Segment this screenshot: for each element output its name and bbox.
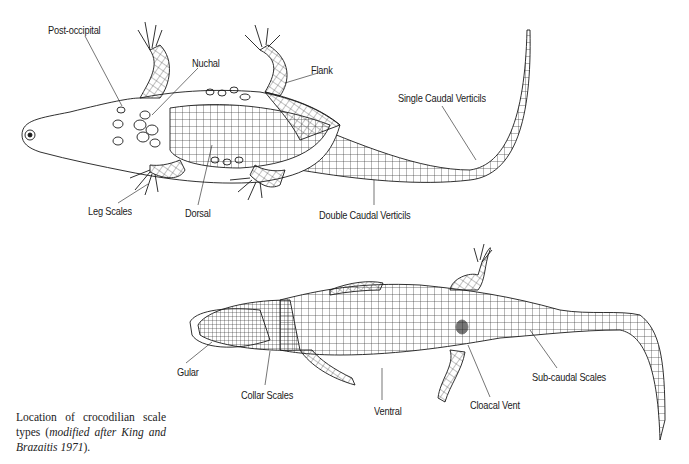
label-collar-scales: Collar Scales xyxy=(241,389,293,401)
label-cloacal-vent: Cloacal Vent xyxy=(470,399,520,411)
label-post-occipital: Post-occipital xyxy=(48,24,100,36)
figure-caption: Location of crocodilian scale types (mod… xyxy=(16,410,166,455)
label-ventral: Ventral xyxy=(374,405,402,417)
label-flank: Flank xyxy=(311,64,333,76)
caption-end: ). xyxy=(83,441,90,453)
label-double-caudal-verticils: Double Caudal Verticils xyxy=(319,209,410,221)
label-nuchal: Nuchal xyxy=(192,57,220,69)
crocodile-diagram xyxy=(0,0,689,464)
label-dorsal: Dorsal xyxy=(185,207,211,219)
label-sub-caudal-scales: Sub-caudal Scales xyxy=(532,371,606,383)
dorsal-view-crocodile xyxy=(22,22,530,200)
ventral-view-crocodile xyxy=(190,244,665,440)
label-leg-scales: Leg Scales xyxy=(88,205,132,217)
label-gular: Gular xyxy=(177,366,199,378)
label-single-caudal-verticils: Single Caudal Verticils xyxy=(398,92,486,104)
